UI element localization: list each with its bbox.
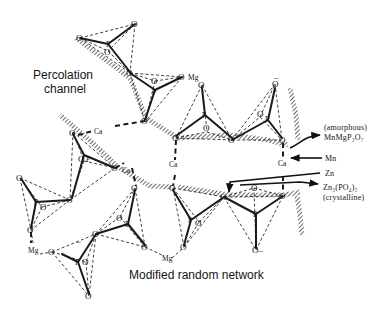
- percolation-label-line2: channel: [44, 82, 86, 96]
- atom-o: O: [198, 80, 205, 90]
- atom-p: P: [188, 216, 192, 225]
- glass-network-diagram: O O P O O O P O Mg O P O O O O O – P O O…: [0, 0, 388, 312]
- atom-p: P: [75, 258, 79, 267]
- zn-label: Zn: [325, 169, 334, 178]
- atom-p: P: [34, 198, 38, 207]
- channel-band-right-upper: [290, 88, 298, 140]
- atom-o: O: [228, 135, 235, 145]
- atom-o: O: [27, 225, 34, 235]
- phosphate-bonds: [22, 24, 283, 294]
- atom-o: O: [111, 163, 118, 173]
- atom-o: O: [141, 116, 148, 126]
- atom-p: P: [86, 155, 90, 164]
- atom-charge: –: [273, 72, 279, 82]
- atom-ca: Ca: [94, 127, 103, 136]
- atom-o: O: [85, 291, 92, 301]
- atom-o: O: [92, 229, 99, 239]
- percolation-label-line1: Percolation: [33, 68, 93, 82]
- atom-o: O: [131, 19, 138, 29]
- atom-o: O: [220, 192, 227, 202]
- atom-labels: O O P O O O P O Mg O P O O O O O – P O O…: [16, 19, 287, 301]
- atom-o: O: [126, 68, 133, 78]
- atom-o: O: [69, 128, 76, 138]
- atom-o-minus: O–: [252, 245, 263, 255]
- atom-o: O: [40, 202, 47, 212]
- atom-ca: Ca: [278, 159, 287, 168]
- atom-o: O: [131, 183, 138, 193]
- atom-o: O: [279, 191, 286, 201]
- crystalline-label: (crystalline): [323, 193, 364, 202]
- atom-p: P: [265, 115, 269, 124]
- atom-p: P: [253, 210, 257, 219]
- atom-o: O: [141, 242, 148, 252]
- atom-o: O: [78, 154, 85, 164]
- atom-o: O: [104, 47, 111, 57]
- diagram-canvas: O O P O O O P O Mg O P O O O O O – P O O…: [0, 0, 388, 312]
- atom-o: O: [48, 247, 55, 257]
- atom-o: O: [257, 109, 264, 119]
- atom-mg: Mg: [162, 254, 173, 263]
- atom-p: P: [152, 88, 156, 97]
- atom-ca: Ca: [122, 166, 131, 175]
- atom-ca: Ca: [169, 160, 178, 169]
- atom-o: O: [203, 123, 210, 133]
- atom-o: O: [172, 133, 179, 143]
- atom-o: O: [16, 173, 23, 183]
- atom-charge: –: [75, 236, 81, 246]
- channel-band-right-lower: [297, 196, 302, 235]
- atom-o: O: [82, 257, 89, 267]
- atom-o: O: [66, 195, 73, 205]
- atom-p: P: [125, 220, 129, 229]
- atom-o: O: [279, 135, 286, 145]
- atom-o: O: [116, 213, 123, 223]
- atom-p: P: [202, 111, 206, 120]
- atom-mg: Mg: [28, 246, 39, 255]
- atom-o: O: [76, 33, 83, 43]
- atom-o: O: [180, 242, 187, 252]
- amorphous-arrow: [290, 135, 320, 148]
- atom-o: O: [195, 218, 202, 228]
- atom-o: O: [178, 72, 185, 82]
- tetrahedra-edges: [20, 24, 283, 296]
- amorphous-formula: MnMgP₂O₇: [324, 133, 364, 142]
- mn-label: Mn: [325, 154, 337, 163]
- atom-o: O: [169, 183, 176, 193]
- percolation-channel-bands: [60, 38, 302, 235]
- atom-o: O: [151, 76, 158, 86]
- amorphous-label: (amorphous): [324, 123, 367, 132]
- crystalline-formula: Zn₃(PO₄)₂: [323, 183, 358, 192]
- network-label: Modified random network: [129, 268, 265, 282]
